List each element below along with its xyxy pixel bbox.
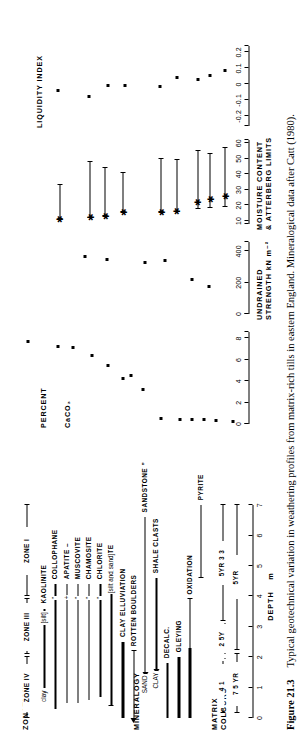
- depth-axis-tick-label: 6: [256, 530, 263, 542]
- depth-axis-tick: [249, 626, 253, 627]
- strength-axis-tick-label: 200: [235, 271, 242, 295]
- liquidity-axis-title: LIQUIDITY INDEX: [35, 55, 44, 128]
- matrix-colour-bar-endcap: [235, 504, 240, 505]
- range-cap-high: [121, 172, 126, 173]
- data-point: [175, 76, 178, 79]
- moisture-content-marker: ✱: [120, 208, 126, 216]
- strength-axis-title-2: STRENGTH kN m⁻²: [264, 241, 273, 320]
- matrix-colour-bar-endcap: [221, 620, 226, 621]
- mineralogy-row-label-right: SAND: [141, 674, 148, 702]
- liquidity-axis-tick: [245, 51, 249, 52]
- mineralogy-arrow-left-icon: [131, 718, 137, 723]
- depth-axis-tick: [249, 565, 253, 566]
- moisture-axis-tick: [245, 173, 249, 174]
- matrix-colour-bar-endcap: [235, 649, 240, 650]
- mineralogy-row-note: [silt]: [40, 611, 47, 624]
- moisture-axis-tick: [245, 142, 249, 143]
- caco3-axis-endtick: [245, 331, 249, 332]
- moisture-content-marker: ✱: [207, 195, 213, 203]
- mineralogy-row-note: [silt and sand]: [107, 553, 114, 594]
- range-cap-low: [223, 206, 228, 207]
- mineralogy-bar-thick: [189, 648, 192, 718]
- depth-axis-tick: [249, 535, 253, 536]
- matrix-colour-bar-endcap: [235, 653, 240, 654]
- data-point: [26, 340, 29, 343]
- liquidity-axis-line: [249, 46, 250, 126]
- moisture-axis-tick: [245, 189, 249, 190]
- mineralogy-row-label: DECALC.: [163, 625, 170, 659]
- liquidity-axis-tick: [245, 67, 249, 68]
- mineralogy-row-label: ROTTEN BOULDERS: [129, 574, 136, 647]
- range-cap-high: [103, 167, 108, 168]
- zonation-bar-endcap: [24, 595, 29, 596]
- moisture-content-marker: ✱: [195, 198, 201, 206]
- data-point: [190, 418, 193, 421]
- depth-axis-tick-label: 1: [256, 682, 263, 694]
- zonation-bar-endcap: [24, 504, 29, 505]
- moisture-axis-tick: [245, 204, 249, 205]
- moisture-axis-tick: [245, 220, 249, 221]
- data-point: [107, 364, 110, 367]
- depth-axis-tick-label: 3: [256, 621, 263, 633]
- moisture-axis-title: MOISTURE CONTENT: [255, 141, 264, 230]
- depth-axis-tick-label: 7: [256, 499, 263, 511]
- data-point: [143, 261, 146, 264]
- data-point: [124, 84, 127, 87]
- data-point: [178, 418, 181, 421]
- data-point: [158, 85, 161, 88]
- mineralogy-row-label: CHLORITE: [96, 542, 103, 581]
- range-cap-high: [223, 147, 228, 148]
- liquidity-axis-tick: [245, 83, 249, 84]
- data-point: [207, 285, 210, 288]
- mineralogy-row-label: KAOLINITE: [40, 564, 47, 605]
- range-whisker: [176, 160, 177, 211]
- moisture-axis-title-2: & ATTERBERG LIMITS: [264, 137, 273, 230]
- depth-axis-tick-label: 0: [256, 712, 263, 724]
- mineralogy-row-note: ”: [96, 596, 103, 600]
- depth-axis-tick-label: 2: [256, 651, 263, 663]
- moisture-axis-tick-label: 20: [235, 196, 242, 214]
- mineralogy-bar: [189, 599, 190, 648]
- zonation-label: ZONE III: [22, 603, 29, 651]
- mineralogy-bar: [133, 651, 134, 718]
- matrix-colour-label: 5YR 3 3: [218, 541, 225, 585]
- caco3-axis-title-2: CaCO₃: [63, 400, 72, 428]
- mineralogy-row-label-right: clay: [40, 690, 47, 718]
- data-point: [163, 259, 166, 262]
- mineralogy-row-label: MUSCOVITE: [73, 536, 80, 581]
- zonation-bar-endcap: [24, 717, 29, 718]
- strength-axis-tick: [245, 250, 249, 251]
- range-cap-high: [195, 150, 200, 151]
- mineralogy-bar-endcap: [109, 705, 114, 706]
- zonation-bar-endcap: [24, 598, 29, 599]
- mineralogy-bar: [111, 578, 112, 706]
- chart-percent-caco3: 02468PERCENTCaCO₃: [13, 324, 296, 432]
- mineralogy-bar: [156, 578, 157, 669]
- moisture-content-marker: ✱: [57, 215, 63, 223]
- range-cap-low: [195, 208, 200, 209]
- depth-axis-tick-label: 4: [256, 590, 263, 602]
- mineralogy-bar-thick: [178, 657, 181, 718]
- data-point: [142, 388, 145, 391]
- mineralogy-bar: [145, 517, 146, 672]
- mineralogy-bar-endcap: [131, 650, 136, 651]
- moisture-content-marker: ✱: [158, 208, 164, 216]
- liquidity-axis-endtick: [245, 125, 249, 126]
- strength-axis-tick-label: 400: [235, 239, 242, 263]
- figure-rotated-canvas: 01234567DEPTHmMATRIXCOLOURS7 5 YR5YR4 12…: [13, 0, 296, 732]
- caco3-axis-line: [249, 332, 250, 424]
- profile-columns-panel: 01234567DEPTHmMATRIXCOLOURS7 5 YR5YR4 12…: [13, 432, 296, 732]
- matrix-colour-bar-endcap: [221, 504, 226, 505]
- matrix-colour-label: 4 1: [218, 664, 225, 708]
- strength-axis-endtick: [245, 241, 249, 242]
- caco3-axis-tick-label: 4: [235, 372, 242, 390]
- data-point: [84, 255, 87, 258]
- mineralogy-row-note: +: [62, 595, 69, 601]
- data-point: [122, 377, 125, 380]
- data-point: [105, 258, 108, 261]
- matrix-colour-label: 7 5 YR: [232, 662, 239, 706]
- mineralogy-bar-thick: [166, 663, 169, 718]
- data-point: [160, 417, 163, 420]
- mineralogy-row-label: PYRITE: [197, 473, 204, 501]
- depth-axis-tick: [249, 687, 253, 688]
